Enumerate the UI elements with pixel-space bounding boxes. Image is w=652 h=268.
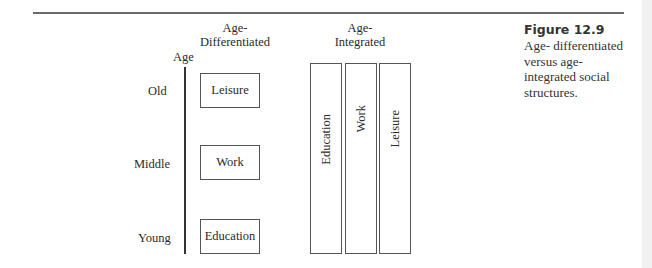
age-integrated-heading: Age- Integrated [310, 21, 410, 49]
caption-line: integrated social [524, 69, 644, 85]
column-work: Work [345, 63, 377, 254]
column-education: Education [310, 63, 342, 254]
age-differentiated-heading: Age- Differentiated [180, 21, 290, 49]
age-level-young: Young [138, 231, 171, 245]
age-level-old: Old [148, 84, 167, 98]
box-work: Work [200, 145, 260, 180]
age-axis-label: Age [173, 50, 194, 64]
age-level-middle: Middle [134, 157, 170, 171]
age-axis-line [184, 67, 186, 254]
caption-line: Age- differentiated [524, 38, 644, 54]
figure-number: Figure 12.9 [524, 22, 605, 37]
figure-caption: Age- differentiated versus age- integrat… [524, 38, 644, 100]
box-label: Education [205, 229, 256, 244]
column-label: Leisure [388, 110, 403, 147]
box-education: Education [200, 219, 260, 254]
box-leisure: Leisure [200, 73, 260, 108]
column-leisure: Leisure [379, 63, 411, 254]
heading-line: Differentiated [180, 35, 290, 49]
heading-line: Age- [310, 21, 410, 35]
column-label: Work [354, 105, 369, 132]
heading-line: Age- [180, 21, 290, 35]
top-rule [33, 12, 624, 14]
heading-line: Integrated [310, 35, 410, 49]
box-label: Work [216, 155, 243, 170]
caption-line: versus age- [524, 54, 644, 70]
caption-line: structures. [524, 85, 644, 101]
box-label: Leisure [211, 83, 248, 98]
column-label: Education [319, 114, 334, 165]
